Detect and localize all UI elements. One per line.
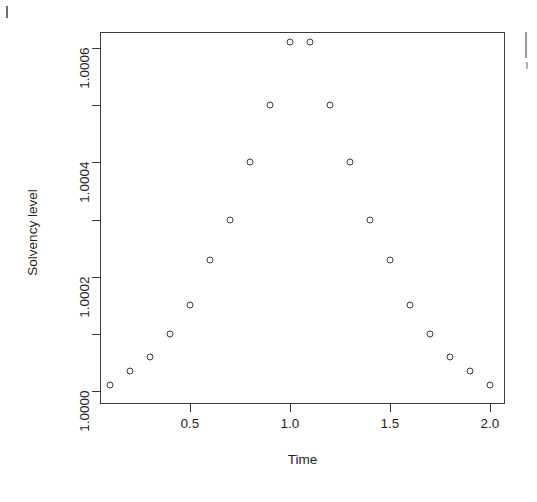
y-axis-tick-label: 1.0002 xyxy=(77,276,92,317)
data-point xyxy=(427,330,434,337)
data-point xyxy=(287,39,294,46)
x-axis-tick-label: 0.5 xyxy=(181,416,200,431)
data-point xyxy=(407,302,414,309)
y-axis-title-label: Solvency level xyxy=(25,189,40,275)
x-axis-title: Time xyxy=(0,452,537,467)
data-point xyxy=(227,216,234,223)
y-axis-tick xyxy=(92,277,100,278)
data-point xyxy=(267,102,274,109)
y-axis-tick xyxy=(92,334,100,335)
data-point xyxy=(127,367,134,374)
y-axis-tick-label: 1.0004 xyxy=(77,162,92,203)
x-axis-tick-label: 2.0 xyxy=(481,416,500,431)
y-axis-tick xyxy=(92,162,100,163)
data-point xyxy=(307,39,314,46)
data-point xyxy=(327,102,334,109)
x-axis-title-label: Time xyxy=(288,452,318,467)
data-point xyxy=(247,159,254,166)
data-point xyxy=(487,382,494,389)
y-axis-tick-label: 1.0000 xyxy=(77,391,92,432)
data-point xyxy=(387,256,394,263)
plot-area-frame xyxy=(100,32,505,404)
data-point xyxy=(107,382,114,389)
data-point xyxy=(347,159,354,166)
x-axis-tick-label: 1.5 xyxy=(381,416,400,431)
data-point xyxy=(147,353,154,360)
data-point xyxy=(187,302,194,309)
data-point xyxy=(207,256,214,263)
y-axis-tick xyxy=(92,105,100,106)
page-edge-artifact xyxy=(6,6,8,18)
data-point xyxy=(367,216,374,223)
y-axis-tick xyxy=(92,48,100,49)
page-edge-artifact-right-lower xyxy=(526,62,528,69)
x-axis-tick xyxy=(490,404,491,412)
x-axis-tick xyxy=(190,404,191,412)
data-point xyxy=(467,367,474,374)
y-axis-tick xyxy=(92,220,100,221)
y-axis-title: Solvency level xyxy=(22,0,42,502)
y-axis-tick-label: 1.0006 xyxy=(77,48,92,89)
x-axis-tick-label: 1.0 xyxy=(281,416,300,431)
data-point xyxy=(447,353,454,360)
page-edge-artifact-right xyxy=(525,32,527,58)
x-axis-tick xyxy=(390,404,391,412)
y-axis-tick xyxy=(92,391,100,392)
scatter-plot-figure: 1.00001.00021.00041.00060.51.01.52.0 Sol… xyxy=(0,0,537,502)
data-point xyxy=(167,330,174,337)
x-axis-tick xyxy=(290,404,291,412)
